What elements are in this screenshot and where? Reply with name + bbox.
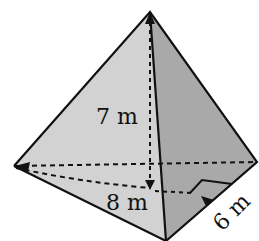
pyramid-diagram: 7 m 8 m 6 m [0, 0, 259, 241]
base-segment-label: 8 m [106, 190, 148, 215]
height-label: 7 m [96, 104, 138, 129]
